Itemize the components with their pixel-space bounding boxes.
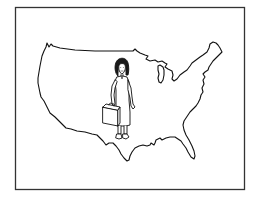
illustration (0, 0, 258, 202)
suitcase (103, 103, 120, 126)
